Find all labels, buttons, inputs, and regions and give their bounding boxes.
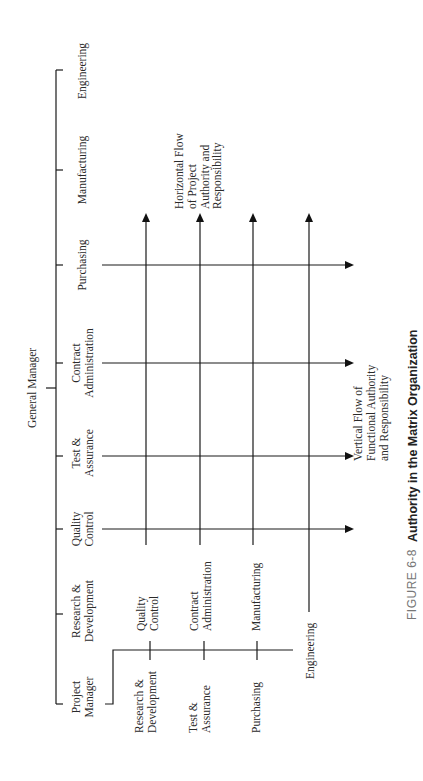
functional-unit-purchasing: Purchasing — [76, 239, 89, 290]
functional-unit-test-assurance-line: Test & — [70, 438, 82, 469]
pm-quality-control-line: Control — [148, 596, 160, 631]
arrow-right-icon — [345, 525, 354, 533]
horizontal-flow-note-line: Horizontal Flow — [173, 133, 185, 209]
arrow-right-icon — [345, 359, 354, 367]
arrow-right-icon — [345, 261, 354, 269]
pm-manufacturing-line: Manufacturing — [250, 562, 263, 631]
pm-contract-administration: ContractAdministration — [188, 561, 213, 631]
figure-title: Authority in the Matrix Organization — [406, 329, 420, 542]
horizontal-flow-note: Horizontal Flowof ProjectAuthority andRe… — [173, 133, 224, 209]
figure-number: FIGURE 6-8 — [405, 549, 419, 620]
functional-unit-project-manager-line: Manager — [83, 676, 96, 717]
functional-unit-research-development-line: Development — [83, 579, 96, 642]
matrix-authority-diagram: General Manager EngineeringManufacturing… — [0, 0, 423, 781]
horizontal-flow-note-line: Responsibility — [211, 142, 224, 209]
functional-flow-lines — [102, 261, 354, 533]
functional-unit-project-manager: ProjectManager — [70, 676, 96, 717]
horizontal-flow-note: Horizontal Flowof ProjectAuthority andRe… — [173, 133, 224, 209]
functional-unit-contract-administration: ContractAdministration — [70, 328, 95, 398]
functional-unit-manufacturing: Manufacturing — [76, 136, 89, 205]
pm-test-assurance: Test &Assurance — [187, 685, 212, 733]
pm-research-development: Research &Development — [133, 670, 159, 733]
project-manager-branch-labels: Research &DevelopmentTest &AssurancePurc… — [133, 561, 317, 733]
pm-engineering-line: Engineering — [304, 623, 317, 679]
functional-unit-quality-control-line: Control — [83, 511, 95, 546]
pm-engineering: Engineering — [304, 623, 317, 679]
vertical-flow-note: Vertical Flow ofFunctional Authorityand … — [352, 365, 391, 461]
functional-unit-quality-control: QualityControl — [70, 511, 95, 546]
vertical-flow-note-line: Vertical Flow of — [352, 386, 364, 461]
pm-test-assurance-line: Test & — [187, 702, 199, 733]
horizontal-flow-note-line: of Project — [186, 163, 199, 209]
functional-unit-research-development-line: Research & — [70, 584, 82, 638]
functional-unit-quality-control-line: Quality — [70, 512, 83, 547]
functional-unit-engineering: Engineering — [76, 43, 89, 99]
pm-purchasing-line: Purchasing — [250, 682, 263, 733]
pm-quality-control: QualityControl — [135, 596, 160, 631]
general-manager-label: General Manager — [26, 348, 39, 428]
vertical-flow-note-line: Functional Authority — [365, 365, 378, 461]
pm-contract-administration-line: Contract — [188, 591, 200, 631]
arrow-up-icon — [249, 213, 257, 222]
pm-purchasing: Purchasing — [250, 682, 263, 733]
functional-unit-research-development: Research &Development — [70, 579, 96, 642]
general-manager-spine — [46, 70, 63, 704]
functional-unit-project-manager-line: Project — [70, 680, 83, 713]
functional-unit-contract-administration-line: Contract — [70, 342, 82, 382]
pm-manufacturing: Manufacturing — [250, 562, 263, 631]
vertical-flow-note-line: and Responsibility — [378, 375, 391, 461]
functional-unit-labels: EngineeringManufacturingPurchasingContra… — [70, 43, 96, 718]
pm-research-development-line: Development — [146, 670, 159, 733]
functional-unit-test-assurance: Test &Assurance — [70, 429, 95, 477]
pm-contract-administration-line: Administration — [201, 561, 213, 631]
arrow-up-icon — [305, 213, 313, 222]
functional-unit-test-assurance-line: Assurance — [83, 429, 95, 477]
functional-unit-engineering-line: Engineering — [76, 43, 89, 99]
arrow-up-icon — [142, 213, 150, 222]
pm-test-assurance-line: Assurance — [200, 685, 212, 733]
functional-unit-purchasing-line: Purchasing — [76, 239, 89, 290]
arrow-up-icon — [196, 213, 204, 222]
pm-quality-control-line: Quality — [135, 596, 148, 631]
functional-unit-manufacturing-line: Manufacturing — [76, 136, 89, 205]
project-flow-lines — [142, 213, 313, 602]
pm-research-development-line: Research & — [133, 679, 145, 733]
functional-unit-contract-administration-line: Administration — [83, 328, 95, 398]
vertical-flow-note: Vertical Flow ofFunctional Authorityand … — [352, 365, 391, 461]
horizontal-flow-note-line: Authority and — [199, 145, 212, 209]
